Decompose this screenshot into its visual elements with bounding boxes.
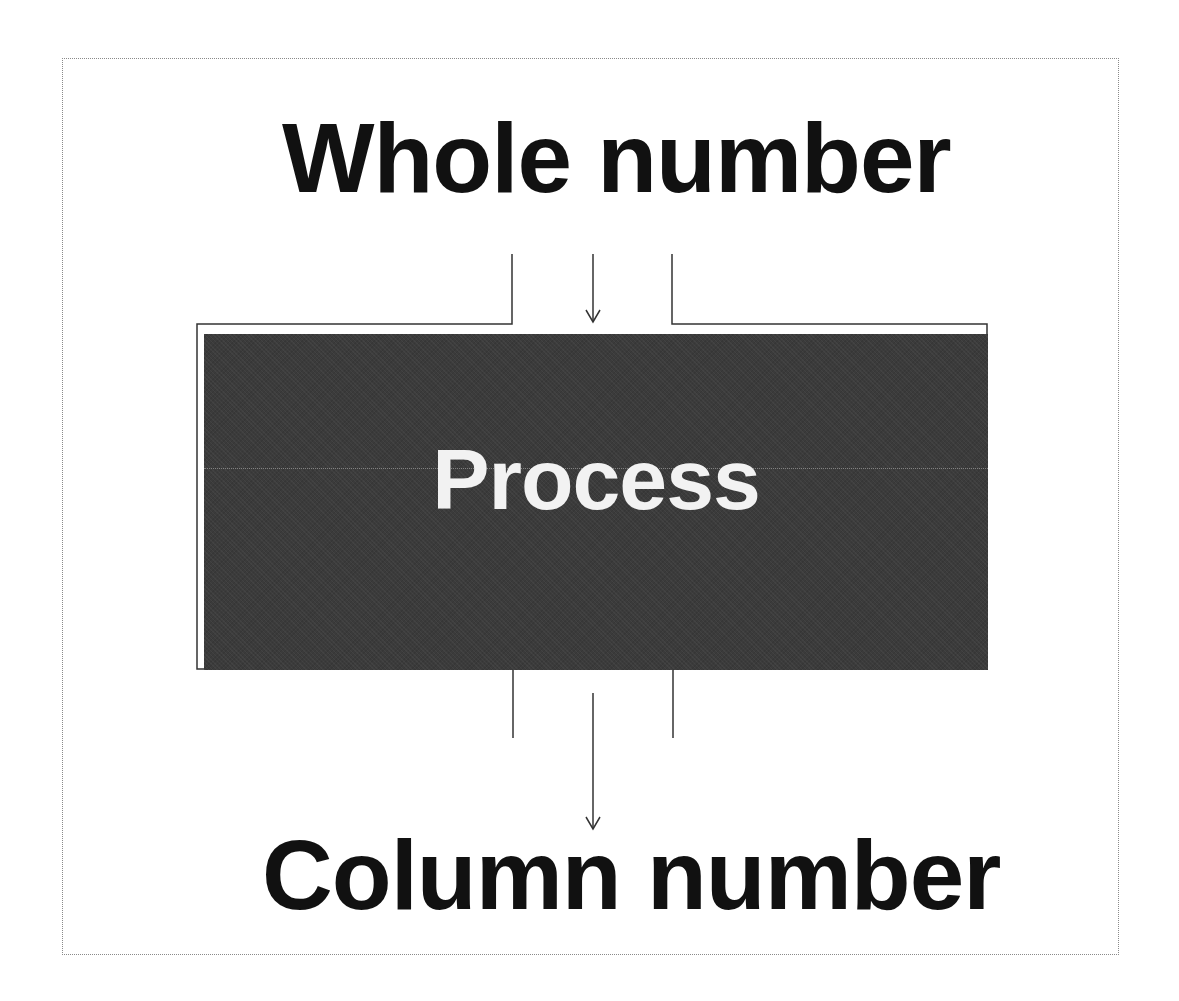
output-label: Column number [262,820,1000,930]
process-box: Process [204,334,988,670]
process-label: Process [204,429,988,529]
